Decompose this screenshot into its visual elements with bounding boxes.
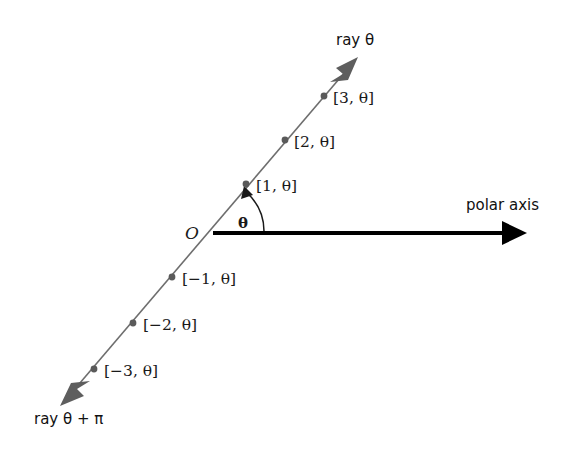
ray-theta-pi-label: ray θ + π [34, 410, 103, 428]
angle-label: θ [238, 214, 248, 232]
point-marker [282, 137, 289, 144]
point-label-2: [2, θ] [294, 133, 335, 151]
point-label-1: [1, θ] [256, 177, 297, 195]
ray-theta-arrowhead [330, 57, 358, 82]
polar-axis-label: polar axis [466, 196, 539, 214]
point-marker [321, 93, 328, 100]
angle-arc [246, 192, 264, 231]
polar-axis-arrowhead [502, 221, 527, 245]
point-label-minus-3: [−3, θ] [104, 362, 158, 380]
origin-label: O [185, 223, 199, 243]
point-marker [130, 320, 137, 327]
point-label-minus-2: [−2, θ] [143, 316, 197, 334]
point-label-3: [3, θ] [333, 89, 374, 107]
ray-theta-pi-arrowhead [60, 381, 90, 406]
polar-ray-diagram: [3, θ] [2, θ] [1, θ] [−1, θ] [−2, θ] [−3… [0, 0, 578, 450]
point-marker [169, 274, 176, 281]
ray-theta-label: ray θ [336, 31, 374, 49]
point-marker [91, 366, 98, 373]
point-label-minus-1: [−1, θ] [182, 270, 236, 288]
point-marker [243, 181, 250, 188]
